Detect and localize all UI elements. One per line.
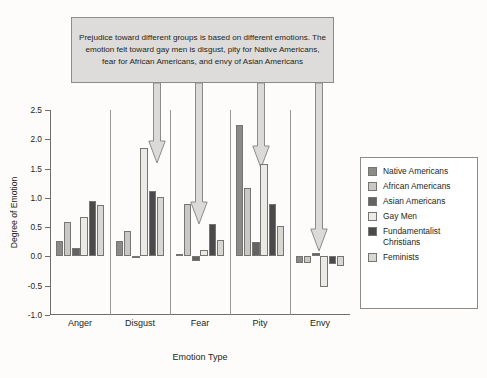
callout-box: Prejudice toward different groups is bas… [71, 17, 334, 83]
legend-label: Native Americans [383, 166, 448, 177]
bar-group: Envy [290, 110, 350, 315]
bar [176, 254, 184, 256]
bar [56, 241, 64, 256]
y-tick-label: 1.0 [30, 193, 42, 203]
bar [149, 191, 157, 257]
bar [236, 125, 244, 256]
bar [337, 256, 345, 266]
bar [116, 241, 124, 256]
bar [64, 222, 72, 256]
bar [80, 217, 88, 256]
bar [252, 242, 260, 256]
legend-swatch [368, 197, 377, 206]
x-axis-label: Emotion Type [50, 352, 350, 362]
bar [260, 164, 268, 257]
plot-area: 2.52.01.51.00.50.0-0.5-1.0 AngerDisgustF… [50, 110, 350, 315]
legend-swatch [368, 212, 377, 221]
y-tick-label: 2.5 [30, 105, 42, 115]
legend-label: Asian Americans [383, 196, 445, 207]
legend-swatch [368, 227, 377, 236]
bar [192, 256, 200, 261]
y-tick-label: 0.0 [30, 251, 42, 261]
legend-item[interactable]: Fundamentalist Christians [368, 226, 471, 248]
bar [304, 256, 312, 262]
legend-label: Gay Men [383, 211, 417, 222]
y-tick-label: 2.0 [30, 134, 42, 144]
callout-text: Prejudice toward different groups is bas… [79, 32, 326, 69]
y-tick-label: 0.5 [30, 222, 42, 232]
bar [269, 204, 277, 256]
bar [140, 148, 148, 256]
bar-group: Fear [170, 110, 230, 315]
bar [296, 256, 304, 262]
x-tick-label: Pity [230, 318, 290, 328]
bar-groups: AngerDisgustFearPityEnvy [50, 110, 350, 315]
y-axis-label: Degree of Emotion [8, 110, 20, 315]
bar [277, 226, 285, 256]
bar [320, 256, 328, 287]
bar [312, 253, 320, 257]
bar [244, 188, 252, 257]
x-tick-label: Anger [50, 318, 110, 328]
x-tick-label: Disgust [110, 318, 170, 328]
bar-group: Anger [50, 110, 110, 315]
bar [72, 248, 80, 256]
y-tick [45, 315, 50, 316]
bar [157, 197, 165, 257]
bar [329, 256, 337, 264]
legend-label: Fundamentalist Christians [383, 226, 471, 248]
x-tick-label: Fear [170, 318, 230, 328]
legend-item[interactable]: African Americans [368, 181, 471, 192]
legend-swatch [368, 167, 377, 176]
bar-group: Disgust [110, 110, 170, 315]
chart-page: Prejudice toward different groups is bas… [0, 0, 487, 378]
bar-group: Pity [230, 110, 290, 315]
legend-label: African Americans [383, 181, 451, 192]
bar [89, 201, 97, 256]
y-tick-label: -0.5 [28, 281, 42, 291]
bar [184, 204, 192, 257]
legend-swatch [368, 182, 377, 191]
y-tick-label: -1.0 [28, 310, 42, 320]
bar [200, 250, 208, 256]
chart-legend: Native AmericansAfrican AmericansAsian A… [360, 157, 478, 309]
legend-item[interactable]: Feminists [368, 252, 471, 263]
legend-swatch [368, 253, 377, 262]
y-tick-label: 1.5 [30, 164, 42, 174]
bar [132, 256, 140, 258]
legend-item[interactable]: Native Americans [368, 166, 471, 177]
x-tick-label: Envy [290, 318, 350, 328]
legend-item[interactable]: Asian Americans [368, 196, 471, 207]
bar [97, 205, 105, 256]
bar [209, 224, 217, 257]
bar [217, 240, 225, 256]
legend-item[interactable]: Gay Men [368, 211, 471, 222]
bar [124, 231, 132, 257]
legend-label: Feminists [383, 252, 419, 263]
